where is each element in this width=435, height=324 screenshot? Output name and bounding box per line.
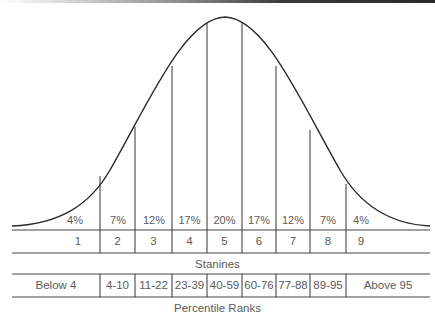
- percent-label: 20%: [207, 214, 242, 226]
- percent-label: 4%: [346, 214, 376, 226]
- stanine-cell: 2: [100, 235, 135, 247]
- percent-label: 12%: [276, 214, 310, 226]
- percent-label: 7%: [102, 214, 134, 226]
- percentile-cell: 89-95: [310, 279, 346, 291]
- percentile-cell: 11-22: [135, 279, 172, 291]
- percent-label: 17%: [172, 214, 207, 226]
- percentile-cell: 40-59: [207, 279, 242, 291]
- stanine-cell: 1: [60, 235, 96, 247]
- percentile-axis-label: Percentile Ranks: [0, 302, 435, 314]
- stanine-cell: 9: [346, 235, 376, 247]
- stanine-cell: 4: [172, 235, 207, 247]
- percentile-cell: 60-76: [242, 279, 276, 291]
- percent-label: 7%: [310, 214, 346, 226]
- stanine-cell: 8: [310, 235, 346, 247]
- bell-curve-chart: [0, 0, 435, 324]
- stanine-cell: 6: [242, 235, 276, 247]
- normal-curve: [12, 17, 430, 226]
- percentile-cell: Below 4: [12, 279, 100, 291]
- stanine-cell: 5: [207, 235, 242, 247]
- percent-label: 17%: [242, 214, 276, 226]
- percentile-cell: Above 95: [346, 279, 430, 291]
- percent-label: 4%: [60, 214, 90, 226]
- stanines-axis-label: Stanines: [0, 258, 435, 270]
- percent-label: 12%: [136, 214, 172, 226]
- percentile-cell: 23-39: [172, 279, 207, 291]
- stanine-cell: 3: [135, 235, 172, 247]
- stanine-cell: 7: [276, 235, 310, 247]
- percentile-cell: 77-88: [276, 279, 310, 291]
- percentile-cell: 4-10: [100, 279, 135, 291]
